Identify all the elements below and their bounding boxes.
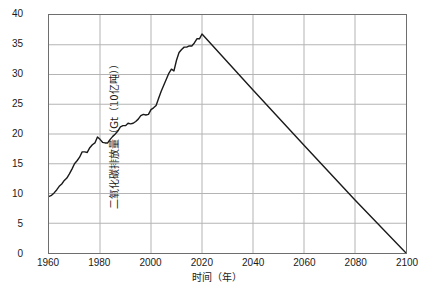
y-axis-tick-10: 10: [0, 189, 23, 199]
x-axis-tick-1980: 1980: [88, 258, 110, 268]
plot-area: [48, 14, 407, 254]
x-axis-tick-2100: 2100: [396, 258, 418, 268]
x-axis-tick-2000: 2000: [139, 258, 161, 268]
x-axis-tick-1960: 1960: [37, 258, 59, 268]
y-axis-tick-5: 5: [0, 219, 23, 229]
y-axis-tick-35: 35: [0, 39, 23, 49]
emissions-line-series: [49, 15, 406, 253]
x-axis-tick-2020: 2020: [191, 258, 213, 268]
x-axis-tick-2040: 2040: [242, 258, 264, 268]
x-axis-tick-2080: 2080: [345, 258, 367, 268]
y-axis-tick-20: 20: [0, 129, 23, 139]
x-axis-title: 时间（年）: [0, 272, 434, 283]
y-axis-tick-25: 25: [0, 99, 23, 109]
co2-emissions-chart: 0510152025303540 19601980200020202040206…: [0, 0, 434, 291]
y-axis-tick-15: 15: [0, 159, 23, 169]
y-axis-tick-0: 0: [0, 249, 23, 259]
x-axis-tick-2060: 2060: [293, 258, 315, 268]
y-axis-tick-30: 30: [0, 69, 23, 79]
y-axis-tick-40: 40: [0, 9, 23, 19]
